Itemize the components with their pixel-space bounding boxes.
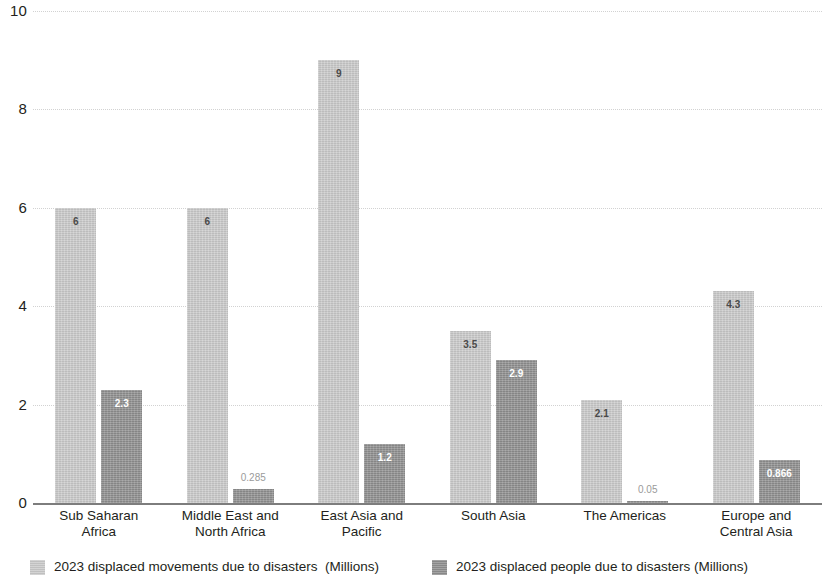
legend-item-displaced-people[interactable]: 2023 displaced people due to disasters (… [432,556,748,578]
y-axis: 0246810 [0,11,27,503]
x-tick-label-line: Central Asia [691,524,823,540]
bar-group: 2.10.05 [581,11,668,503]
bar[interactable] [713,291,754,503]
bar-value-label: 0.05 [627,485,668,495]
y-tick-label: 0 [1,495,27,510]
bar-value-label: 0.866 [759,469,800,479]
bar-value-label: 1.2 [364,453,405,463]
bar-group: 4.30.866 [713,11,800,503]
x-tick-label-line: The Americas [559,508,691,524]
bar-group: 91.2 [318,11,405,503]
x-tick-label-line: North Africa [165,524,297,540]
x-tick-label: The Americas [559,508,691,524]
bar-value-label: 0.285 [233,473,274,483]
bar[interactable] [759,460,800,503]
bars-layer: 62.360.28591.23.52.92.10.054.30.866 [33,11,822,503]
bar-value-label: 9 [318,69,359,79]
legend-item-displaced-movements[interactable]: 2023 displaced movements due to disaster… [30,556,379,578]
bar-value-label: 4.3 [713,300,754,310]
bar[interactable] [450,331,491,503]
bar-value-label: 2.3 [101,399,142,409]
bar[interactable] [233,489,274,503]
bar[interactable] [187,208,228,503]
bar[interactable] [496,360,537,503]
x-tick-label-line: Sub Saharan [33,508,165,524]
bar-group: 62.3 [55,11,142,503]
legend-swatch-icon-series-b [432,560,447,575]
y-tick-label: 10 [1,3,27,18]
x-tick-label-line: Middle East and [165,508,297,524]
bar[interactable] [318,60,359,503]
bar-group: 3.52.9 [450,11,537,503]
bar-value-label: 2.9 [496,369,537,379]
x-tick-label: East Asia andPacific [296,508,428,540]
chart-legend: 2023 displaced movements due to disaster… [0,556,830,582]
bar-group: 60.285 [187,11,274,503]
bar-chart: 0246810 62.360.28591.23.52.92.10.054.30.… [0,0,830,584]
legend-label: 2023 displaced movements due to disaster… [54,559,379,575]
y-tick-label: 4 [1,298,27,313]
legend-label: 2023 displaced people due to disasters (… [456,559,748,575]
x-axis: Sub SaharanAfricaMiddle East andNorth Af… [33,508,822,550]
x-tick-label: South Asia [428,508,560,524]
x-tick-label-line: South Asia [428,508,560,524]
x-tick-label-line: Europe and [691,508,823,524]
x-tick-label: Sub SaharanAfrica [33,508,165,540]
bar-value-label: 3.5 [450,340,491,350]
x-tick-label-line: East Asia and [296,508,428,524]
y-tick-label: 8 [1,101,27,116]
y-tick-label: 6 [1,200,27,215]
x-axis-baseline [33,503,822,505]
bar-value-label: 2.1 [581,409,622,419]
legend-swatch-icon-series-a [30,560,45,575]
x-tick-label-line: Africa [33,524,165,540]
y-tick-label: 2 [1,397,27,412]
x-tick-label: Europe andCentral Asia [691,508,823,540]
bar-value-label: 6 [55,217,96,227]
x-tick-label-line: Pacific [296,524,428,540]
bar[interactable] [55,208,96,503]
bar-value-label: 6 [187,217,228,227]
x-tick-label: Middle East andNorth Africa [165,508,297,540]
